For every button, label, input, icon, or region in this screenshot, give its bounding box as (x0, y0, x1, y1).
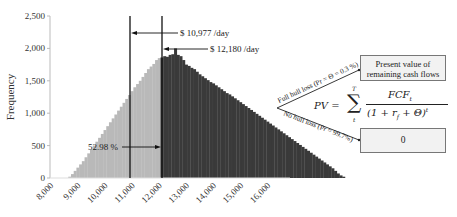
histogram-bar (245, 106, 248, 178)
histogram-bar (253, 112, 256, 178)
y-tick-label: 0 (41, 173, 46, 183)
sum-icon: ∑ (347, 90, 361, 114)
y-tick-label: 1,000 (25, 108, 46, 118)
histogram-bar (296, 143, 299, 178)
y-tick-label: 1,500 (25, 76, 46, 86)
histogram-bar (139, 81, 142, 178)
histogram-bar (87, 153, 90, 178)
denominator-text: (1 + r (367, 107, 397, 118)
histogram-bar (239, 102, 242, 178)
histogram-bar (166, 57, 169, 178)
denominator-sup: t (426, 106, 428, 113)
histogram-bar (106, 126, 109, 178)
histogram-bar (337, 173, 340, 178)
histogram-bar (266, 122, 269, 178)
histogram-bar (329, 166, 332, 178)
histogram-bar (120, 107, 123, 178)
histogram-bar (342, 177, 345, 178)
histogram-bar (152, 64, 155, 178)
histogram-bar (150, 67, 153, 178)
x-tick-label: 15,000 (221, 180, 246, 205)
y-tick-label: 2,000 (25, 43, 46, 53)
label-pct: 52.98 % (88, 142, 119, 152)
histogram-bar (247, 108, 250, 178)
histogram-bar (158, 58, 161, 178)
y-tick-label: 2,500 (25, 11, 46, 21)
histogram-bar (236, 100, 239, 178)
histogram-bar (74, 171, 77, 178)
histogram-bar (169, 55, 172, 178)
histogram-bar (220, 89, 223, 178)
histogram-bar (334, 171, 337, 178)
histogram-bar (272, 126, 275, 178)
histogram-bar (234, 98, 237, 178)
histogram-bar (258, 116, 261, 178)
histogram-bar (217, 87, 220, 178)
histogram-bar (76, 168, 79, 178)
histogram-bar (133, 87, 136, 178)
histogram-bar (201, 76, 204, 178)
histogram-bar (177, 55, 180, 178)
histogram-bar (125, 99, 128, 178)
histogram-bar (318, 159, 321, 178)
histogram-bar (179, 56, 182, 178)
histogram-bar (196, 72, 199, 178)
histogram-bar (277, 129, 280, 178)
histogram-bar (250, 110, 253, 178)
pv-formula: PV = T ∑ t FCFt (1 + rf + Θ)t (300, 86, 457, 126)
histogram-bar (285, 135, 288, 178)
histogram-bar (304, 149, 307, 178)
histogram-bar (104, 130, 107, 178)
histogram-bar (310, 153, 313, 178)
histogram-bar (315, 157, 318, 178)
x-axis-ticks: 8,0009,00010,00011,00012,00013,00014,000… (34, 180, 273, 205)
denominator: (1 + rf + Θ)t (367, 106, 428, 120)
histogram-bar (188, 66, 191, 178)
y-tick-label: 500 (32, 141, 46, 151)
numerator: FCFt (388, 89, 412, 102)
label-12180: $ 12,180 /day (210, 44, 260, 54)
x-tick-label: 11,000 (112, 180, 137, 205)
histogram-bar (331, 168, 334, 178)
present-value-box: Present value of remaining cash flows (360, 55, 446, 81)
x-tick-label: 9,000 (61, 180, 83, 202)
histogram-bar (302, 147, 305, 178)
histogram-bar (283, 133, 286, 178)
histogram-bar (231, 96, 234, 178)
histogram-bar (155, 60, 158, 178)
histogram-bar (204, 78, 207, 178)
arrowhead-icon (163, 47, 169, 51)
histogram-bar (171, 54, 174, 178)
box-line-1: Present value of (361, 59, 445, 69)
denominator-rest: + Θ) (399, 107, 426, 118)
x-tick-label: 8,000 (34, 180, 56, 202)
histogram-bar (242, 104, 245, 178)
histogram-bar (291, 139, 294, 178)
histogram-bar (269, 124, 272, 178)
histogram-bar (280, 131, 283, 178)
histogram-bar (255, 114, 258, 178)
histogram-bar (163, 56, 166, 178)
histogram-bar (312, 155, 315, 178)
x-tick-label: 16,000 (248, 180, 273, 205)
histogram-bar (174, 48, 177, 178)
histogram-bar (321, 161, 324, 179)
histogram-bar (136, 84, 139, 178)
histogram-bar (212, 83, 215, 178)
histogram-bar (131, 91, 134, 178)
formula-lhs: PV = (314, 100, 340, 111)
histogram-bar (85, 157, 88, 178)
histogram-bar (193, 69, 196, 178)
histogram-bar (123, 103, 126, 178)
y-axis-ticks: 05001,0001,5002,0002,500 (25, 11, 50, 183)
y-axis-label: Frequency (4, 73, 16, 120)
zero-value-box: 0 (360, 128, 446, 153)
box-line-2: remaining cash flows (361, 69, 445, 79)
numerator-sub: t (410, 95, 412, 102)
arrowhead-icon (131, 31, 137, 35)
histogram-bar (261, 118, 264, 178)
histogram-bar (190, 68, 193, 178)
x-tick-label: 12,000 (139, 180, 164, 205)
histogram-bar (215, 85, 218, 178)
histogram-bar (207, 80, 210, 178)
